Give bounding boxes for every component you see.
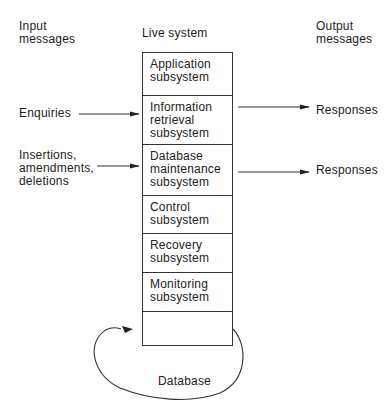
control-subsystem: Control subsystem	[143, 196, 232, 234]
empty-subsystem	[143, 312, 232, 345]
responses-label-2: Responses	[316, 164, 378, 177]
insertions-label: Insertions, amendments, deletions	[19, 149, 94, 188]
recovery-subsystem-label: Recovery subsystem	[150, 238, 209, 265]
responses-label-1: Responses	[316, 104, 378, 117]
monitoring-subsystem: Monitoring subsystem	[143, 273, 232, 312]
application-subsystem-label: Application subsystem	[150, 57, 211, 84]
database-maintenance-subsystem-label: Database maintenance subsystem	[150, 149, 221, 189]
application-subsystem: Application subsystem	[143, 53, 232, 96]
enquiries-label: Enquiries	[19, 107, 71, 120]
input-messages-header: Input messages	[19, 20, 75, 46]
database-label: Database	[158, 375, 211, 388]
live-system-stack: Application subsystem Information retrie…	[142, 52, 233, 346]
database-maintenance-subsystem: Database maintenance subsystem	[143, 145, 232, 196]
output-messages-header: Output messages	[316, 20, 372, 46]
information-retrieval-subsystem-label: Information retrieval subsystem	[150, 100, 212, 140]
live-system-header: Live system	[142, 27, 208, 40]
monitoring-subsystem-label: Monitoring subsystem	[150, 277, 209, 304]
recovery-subsystem: Recovery subsystem	[143, 234, 232, 273]
information-retrieval-subsystem: Information retrieval subsystem	[143, 96, 232, 145]
control-subsystem-label: Control subsystem	[150, 200, 209, 227]
